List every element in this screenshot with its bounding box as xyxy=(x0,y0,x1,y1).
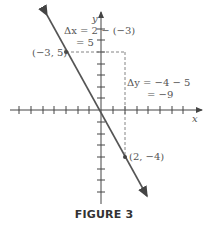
delta-y-label-line1: Δy = −4 − 5 xyxy=(127,77,190,88)
coordinate-graph: y x (−3, 5) (2, −4) Δx = 2 − (−3) = 5 Δy… xyxy=(0,0,208,229)
y-axis-label: y xyxy=(91,13,98,24)
figure-caption: FIGURE 3 xyxy=(0,208,208,221)
point-b-label: (2, −4) xyxy=(129,151,164,162)
delta-x-label-line2: = 5 xyxy=(76,37,94,48)
point-b-marker xyxy=(123,155,127,159)
x-axis-label: x xyxy=(192,113,198,124)
delta-x-label-line1: Δx = 2 − (−3) xyxy=(64,25,135,36)
delta-y-label-line2: = −9 xyxy=(147,89,173,100)
point-a-label: (−3, 5) xyxy=(32,47,67,58)
